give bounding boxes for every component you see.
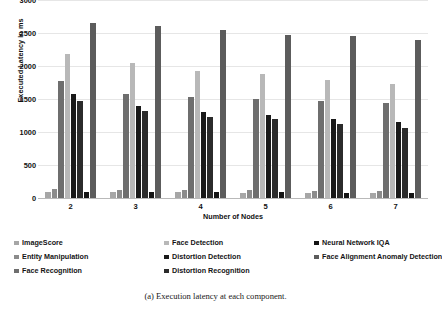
legend-label: Distortion Detection — [172, 253, 241, 260]
bar — [123, 94, 128, 198]
bar — [402, 128, 407, 198]
legend-label: Neural Network IQA — [322, 239, 390, 246]
bar-group — [103, 0, 168, 198]
bar-group — [168, 0, 233, 198]
y-axis-tick: 1000 — [2, 128, 36, 137]
bar — [272, 119, 277, 198]
bar — [396, 122, 401, 198]
legend-item: Distortion Recognition — [164, 267, 314, 274]
legend-swatch-icon — [164, 241, 169, 246]
legend-label: Face Alignment Anomaly Detection — [322, 253, 442, 260]
legend-item: Entity Manipulation — [14, 253, 164, 260]
bar-group — [298, 0, 363, 198]
legend-label: Face Detection — [172, 239, 223, 246]
bar-group — [363, 0, 428, 198]
bar — [337, 124, 342, 198]
x-axis-tick: 7 — [363, 199, 428, 211]
bar — [58, 81, 63, 198]
bar — [247, 190, 252, 198]
y-axis-tick: 1500 — [2, 95, 36, 104]
bar — [331, 119, 336, 198]
legend-label: Distortion Recognition — [172, 267, 249, 274]
x-axis-tick: 3 — [103, 199, 168, 211]
bar — [266, 115, 271, 198]
bar — [390, 84, 395, 199]
legend-item: ImageScore — [14, 239, 164, 246]
legend-label: Entity Manipulation — [22, 253, 88, 260]
bar — [136, 106, 141, 198]
bar — [90, 23, 95, 198]
legend-label: Face Recognition — [22, 267, 82, 274]
bar-groups — [38, 0, 428, 198]
bar — [350, 36, 355, 198]
figure-caption: (a) Execution latency at each component. — [0, 291, 431, 301]
y-axis-tick: 0 — [2, 194, 36, 203]
bar — [52, 189, 57, 198]
bar — [155, 26, 160, 198]
legend-item: Distortion Detection — [164, 253, 314, 260]
bar — [117, 190, 122, 198]
legend-swatch-icon — [314, 255, 319, 260]
bar — [201, 112, 206, 198]
bar — [195, 71, 200, 198]
legend-swatch-icon — [314, 241, 319, 246]
legend-swatch-icon — [14, 269, 19, 274]
bar — [415, 40, 420, 198]
bar — [71, 94, 76, 198]
x-axis-tick: 6 — [298, 199, 363, 211]
bar — [312, 191, 317, 198]
bar — [383, 103, 388, 198]
bar — [142, 111, 147, 198]
x-axis-tick: 2 — [38, 199, 103, 211]
y-axis-tick: 2000 — [2, 62, 36, 71]
bar — [77, 101, 82, 198]
legend-swatch-icon — [14, 255, 19, 260]
y-axis-tick: 500 — [2, 161, 36, 170]
bar — [188, 97, 193, 198]
bar — [377, 191, 382, 198]
bar — [220, 30, 225, 198]
y-axis-tick-column: 050010001500200025003000 — [0, 0, 36, 215]
bar-group — [233, 0, 298, 198]
bar — [130, 63, 135, 198]
bar — [65, 54, 70, 198]
legend-item: Face Alignment Anomaly Detection — [314, 253, 418, 260]
legend-swatch-icon — [164, 269, 169, 274]
legend-swatch-icon — [164, 255, 169, 260]
bar-group — [38, 0, 103, 198]
bar — [325, 80, 330, 198]
y-axis-tick: 2500 — [2, 29, 36, 38]
legend-item: Face Detection — [164, 239, 314, 246]
bar — [260, 74, 265, 198]
chart-plot-area: Executed Latency in ms 05001000150020002… — [0, 0, 431, 215]
chart-legend: ImageScoreFace DetectionNeural Network I… — [14, 236, 418, 278]
legend-item: Neural Network IQA — [314, 239, 418, 246]
bar — [318, 101, 323, 198]
legend-label: ImageScore — [22, 239, 63, 246]
x-axis-tick: 4 — [168, 199, 233, 211]
x-axis-tick: 5 — [233, 199, 298, 211]
bar — [253, 99, 258, 198]
y-axis-tick: 3000 — [2, 0, 36, 5]
bar — [285, 35, 290, 198]
bar — [207, 117, 212, 198]
legend-swatch-icon — [14, 241, 19, 246]
x-axis-label: Number of Nodes — [38, 212, 428, 221]
legend-item: Face Recognition — [14, 267, 164, 274]
bar — [182, 190, 187, 198]
